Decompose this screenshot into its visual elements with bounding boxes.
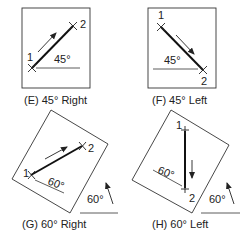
rotation-arrow xyxy=(106,183,113,204)
end-label: 2 xyxy=(80,18,86,30)
point-2-cross xyxy=(181,185,189,193)
start-label: 1 xyxy=(23,167,29,179)
panel-caption: (H) 60° Left xyxy=(152,218,208,230)
point-1-cross xyxy=(157,23,165,31)
start-label: 1 xyxy=(27,51,33,63)
direction-arrow xyxy=(38,33,56,52)
angle-label: 60° xyxy=(156,164,176,181)
panel-caption: (F) 45° Left xyxy=(152,94,207,106)
end-label: 2 xyxy=(189,192,195,204)
rotation-arrow xyxy=(227,183,234,204)
end-label: 2 xyxy=(88,142,94,154)
point-2-cross xyxy=(199,66,207,74)
angle-label: 45° xyxy=(164,54,181,66)
angle-label: 60° xyxy=(46,175,66,192)
start-label: 1 xyxy=(158,9,164,21)
end-label: 2 xyxy=(201,75,207,87)
point-1-cross xyxy=(181,126,189,134)
angle-label: 45° xyxy=(54,53,71,65)
panel-h: 1 2 60° 60° (H) 60° Left xyxy=(132,110,240,230)
rotation-label: 60° xyxy=(87,193,104,205)
weld-line xyxy=(31,146,82,175)
point-2-cross xyxy=(69,22,77,30)
panel-g: 1 2 60° 60° (G) 60° Right xyxy=(12,110,118,230)
panel-caption: (E) 45° Right xyxy=(24,94,87,106)
point-1-cross xyxy=(28,64,36,72)
rotation-label: 60° xyxy=(209,193,226,205)
panel-caption: (G) 60° Right xyxy=(22,218,86,230)
panel-f: 1 2 45° (F) 45° Left xyxy=(148,8,216,106)
weld-angle-diagram: 1 2 45° (E) 45° Right 1 2 45° (F) 45° Le… xyxy=(0,0,245,238)
start-label: 1 xyxy=(176,119,182,131)
panel-e: 1 2 45° (E) 45° Right xyxy=(22,8,90,106)
